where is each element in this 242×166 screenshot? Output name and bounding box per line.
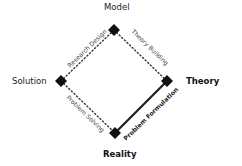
node-label-model: Model xyxy=(104,2,130,12)
node-label-reality: Reality xyxy=(103,149,136,159)
edge-research-design xyxy=(61,30,114,81)
edge-label-theory-building: Theory Building xyxy=(129,27,170,67)
node-model-diamond xyxy=(108,24,120,36)
edge-label-problem-solving: Problem Solving xyxy=(65,94,107,134)
node-label-solution: Solution xyxy=(12,76,47,86)
edge-problem-solving xyxy=(61,81,115,133)
edge-label-research-design: Research Design xyxy=(66,28,109,70)
node-solution-diamond xyxy=(55,75,67,87)
edge-label-problem-formulation: Problem Formulation xyxy=(122,86,180,142)
node-label-theory: Theory xyxy=(186,76,219,86)
